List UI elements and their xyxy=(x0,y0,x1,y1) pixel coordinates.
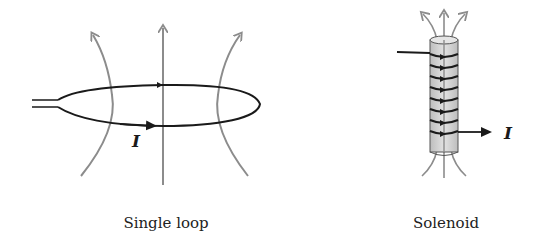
solenoid-panel: I xyxy=(397,13,513,178)
single-loop-panel: I xyxy=(32,28,260,185)
caption-solenoid: Solenoid xyxy=(413,214,479,232)
loop-wire xyxy=(58,85,260,126)
current-label-solenoid: I xyxy=(503,123,513,143)
solenoid-input-wire xyxy=(397,52,430,53)
field-line-right xyxy=(217,35,248,176)
current-arrow-bottom xyxy=(120,124,155,126)
magnetic-field-diagram: I xyxy=(0,0,540,249)
caption-single-loop: Single loop xyxy=(123,214,208,232)
field-line-top-left xyxy=(423,14,437,40)
field-line-left xyxy=(81,35,113,176)
current-label-loop: I xyxy=(131,131,141,151)
loop-wire-leads xyxy=(32,100,58,107)
field-line-top-right xyxy=(451,14,465,40)
